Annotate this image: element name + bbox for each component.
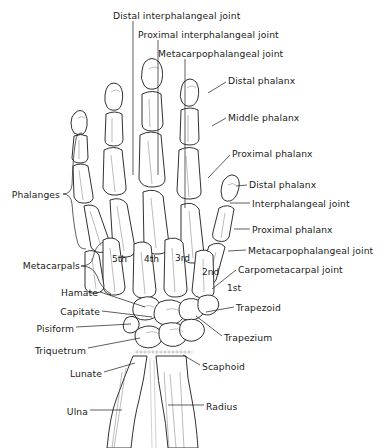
label-metacarpophalangeal-joint: Metacarpophalangeal joint [158, 48, 283, 59]
label-radius: Radius [206, 401, 237, 412]
label-middle-phalanx-3rd: Middle phalanx [228, 112, 299, 123]
label-digit-2nd: 2nd [202, 267, 219, 277]
hand-skeleton-illustration: .bone { fill:#ffffff; stroke:#1a1a1a; st… [0, 0, 392, 448]
label-distal-phalanx-3rd: Distal phalanx [228, 75, 295, 86]
label-triquetrum: Triquetrum [0, 345, 86, 356]
digit-4-bones [103, 83, 135, 257]
label-proximal-interphalangeal-joint: Proximal interphalangeal joint [138, 29, 279, 40]
digit-2-bones [177, 79, 204, 263]
digit-3-bones [139, 59, 169, 255]
label-capitate: Capitate [0, 306, 100, 317]
label-digit-5th: 5th [112, 254, 127, 264]
carpal-bones [123, 295, 219, 354]
label-distal-interphalangeal-joint: Distal interphalangeal joint [113, 10, 240, 21]
label-interphalangeal-joint: Interphalangeal joint [252, 198, 350, 209]
label-pisiform: Pisiform [0, 323, 74, 334]
label-carpometacarpal-joint: Carpometacarpal joint [238, 264, 343, 275]
label-trapezium: Trapezium [224, 332, 272, 343]
label-trapezoid: Trapezoid [236, 302, 281, 313]
label-proximal-phalanx-thumb: Proximal phalanx [252, 224, 333, 235]
label-digit-4th: 4th [144, 254, 159, 264]
label-lunate: Lunate [0, 368, 102, 379]
label-hamate: Hamate [0, 287, 98, 298]
label-phalanges: Phalanges [0, 189, 60, 200]
label-ulna: Ulna [0, 406, 88, 417]
label-digit-1st: 1st [227, 283, 241, 293]
label-proximal-phalanx-3rd: Proximal phalanx [232, 148, 313, 159]
forearm-bones [107, 356, 198, 448]
label-digit-3rd: 3rd [175, 253, 190, 263]
label-metacarpophalangeal-joint-thumb: Metacarpophalangeal joint [248, 245, 373, 256]
hand-skeleton-figure: .bone { fill:#ffffff; stroke:#1a1a1a; st… [0, 0, 392, 448]
label-distal-phalanx-thumb: Distal phalanx [249, 179, 316, 190]
label-scaphoid: Scaphoid [202, 361, 245, 372]
label-metacarpals: Metacarpals [0, 260, 80, 271]
